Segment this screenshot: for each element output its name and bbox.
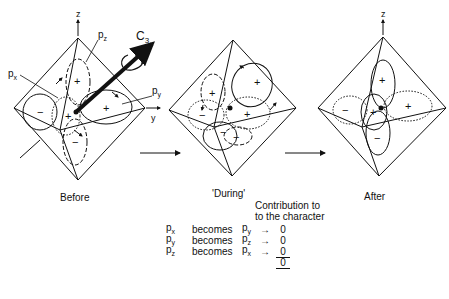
caption-during: 'During'	[212, 188, 245, 199]
during-panel: + + + − − −	[169, 40, 296, 176]
table-header: Contribution to to the character	[255, 200, 324, 222]
y-axis-label: y	[151, 113, 156, 123]
signs-before: + + + − −	[37, 75, 109, 148]
center-dot-after	[379, 106, 384, 111]
pz-label: pz	[98, 29, 108, 42]
arrow-icon: →	[260, 224, 276, 235]
caption-before: Before	[60, 192, 89, 203]
c3-label: C3	[136, 29, 150, 45]
center-dot-during	[228, 106, 233, 111]
svg-text:+: +	[209, 87, 215, 99]
svg-text:−: −	[374, 132, 380, 144]
c3-axis	[76, 44, 152, 112]
arrow-icon: →	[260, 246, 276, 257]
svg-text:−: −	[199, 109, 205, 121]
py-label: py	[152, 85, 162, 99]
svg-text:−: −	[72, 136, 78, 148]
table-row: pz becomes px → 0	[166, 246, 290, 257]
character-table: px becomes py → 0 py becomes pz → 0 pz b…	[166, 224, 290, 268]
z-axis-label: z	[76, 9, 81, 19]
svg-text:+: +	[370, 106, 376, 118]
center-dot	[74, 110, 79, 115]
svg-text:+: +	[74, 75, 80, 87]
svg-text:+: +	[379, 74, 385, 86]
z-axis-label-after: z	[381, 9, 386, 19]
svg-text:−: −	[37, 106, 43, 118]
before-panel: z y C3 + + + − −	[8, 9, 162, 180]
svg-text:+: +	[244, 108, 250, 120]
after-panel: z + + + − −	[318, 9, 446, 176]
svg-text:+: +	[405, 100, 411, 112]
svg-text:+: +	[103, 102, 109, 114]
caption-after: After	[364, 191, 385, 202]
svg-text:−: −	[342, 104, 348, 116]
svg-text:+: +	[254, 76, 260, 88]
rotation-arrow-pz-icon	[56, 78, 62, 84]
svg-text:−: −	[233, 131, 239, 143]
character-total: 0	[276, 257, 290, 269]
svg-text:−: −	[220, 126, 226, 138]
arrow-icon: →	[260, 235, 276, 246]
svg-text:+: +	[65, 110, 71, 122]
rotation-arrow-py-icon	[112, 92, 118, 97]
signs-after: + + + − −	[342, 74, 411, 144]
px-label: px	[8, 68, 18, 81]
